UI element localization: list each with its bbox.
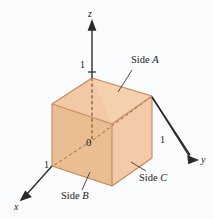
y-axis-tick-label: 1 <box>160 135 165 145</box>
x-axis-line <box>27 166 52 194</box>
x-axis-tick-label: 1 <box>44 160 49 170</box>
x-axis-label: x <box>14 202 18 212</box>
y-axis-outer-seg <box>152 97 191 159</box>
cube-axes-figure: z 1 0 1 y 1 x Side A Side B Side C <box>0 0 214 219</box>
side-c-label: Side C <box>139 173 167 184</box>
z-axis-tick-label: 1 <box>80 60 85 70</box>
y-axis-label: y <box>201 155 205 165</box>
side-a-label: Side A <box>131 55 159 66</box>
side-a-label-letter: A <box>152 54 158 65</box>
side-b-label-prefix: Side <box>61 190 82 201</box>
figure-canvas <box>0 0 214 219</box>
side-c-label-prefix: Side <box>139 172 160 183</box>
x-axis-arrowhead <box>21 192 31 200</box>
origin-label: 0 <box>86 137 92 148</box>
side-b-label-letter: B <box>82 190 88 201</box>
z-axis-arrowhead <box>89 21 96 30</box>
side-b-label: Side B <box>61 191 89 202</box>
side-c-label-letter: C <box>160 172 167 183</box>
side-a-label-prefix: Side <box>131 54 152 65</box>
z-axis-label: z <box>88 9 92 19</box>
